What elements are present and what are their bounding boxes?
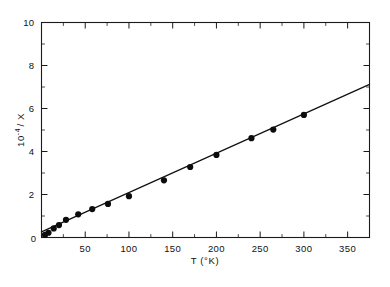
x-tick-label: 350 (339, 243, 356, 254)
y-tick-label: 10 (23, 17, 34, 28)
plot-canvas: 050100150200250300350 246810 T (°K) 10-4… (0, 0, 390, 287)
data-point (301, 112, 307, 118)
data-point (56, 222, 62, 228)
x-axis-title-label: T (°K) (191, 255, 219, 266)
x-tick-label: 100 (120, 243, 137, 254)
y-tick-label: 4 (29, 146, 35, 157)
data-point (51, 225, 57, 231)
y-tick-label: 2 (29, 189, 35, 200)
figure-container: 050100150200250300350 246810 T (°K) 10-4… (0, 0, 390, 287)
data-point (89, 206, 95, 212)
data-point (105, 201, 111, 207)
data-point (45, 230, 51, 236)
data-point (248, 135, 254, 141)
data-point (63, 217, 69, 223)
data-point (213, 152, 219, 158)
x-tick-label: 0 (31, 233, 37, 244)
figure-background (0, 0, 390, 287)
x-tick-label: 150 (164, 243, 181, 254)
data-point (187, 164, 193, 170)
y-tick-label: 8 (29, 60, 35, 71)
x-tick-label: 300 (295, 243, 312, 254)
y-tick-label: 6 (29, 103, 35, 114)
x-axis-title: T (°K) (191, 255, 219, 266)
data-point (126, 193, 132, 199)
data-point (270, 126, 276, 132)
data-point (161, 177, 167, 183)
x-tick-label: 250 (252, 243, 269, 254)
data-point (75, 211, 81, 217)
x-tick-label: 50 (80, 243, 91, 254)
x-tick-label: 200 (208, 243, 225, 254)
